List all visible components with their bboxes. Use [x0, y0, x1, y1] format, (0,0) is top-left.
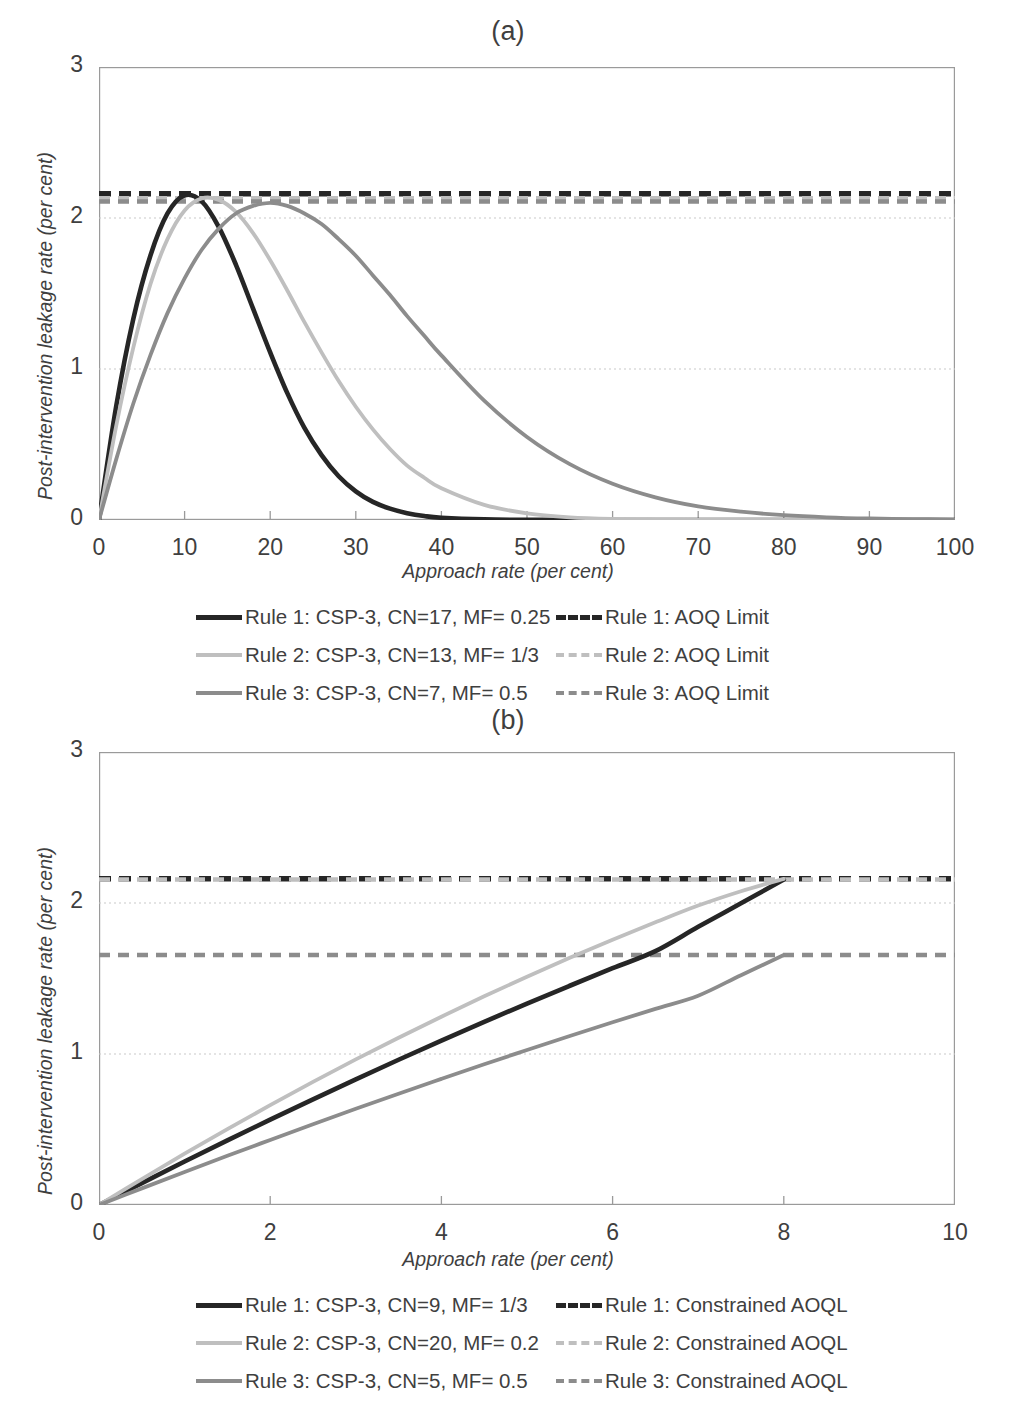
panel-b-chart-svg: [99, 752, 955, 1205]
y-tick-label: 3: [37, 736, 83, 763]
x-tick-label: 60: [573, 534, 653, 561]
panel-a-title: (a): [0, 16, 1016, 47]
panel-a-plot-area: [99, 67, 955, 520]
legend-item[interactable]: Rule 1: CSP-3, CN=9, MF= 1/3: [196, 1293, 546, 1317]
x-tick-label: 10: [915, 1219, 995, 1246]
legend-item[interactable]: Rule 2: CSP-3, CN=13, MF= 1/3: [196, 643, 546, 667]
legend-solid-line-icon: [196, 1303, 242, 1308]
legend-dashed-line-icon: [556, 1341, 602, 1345]
legend-solid-line-icon: [196, 615, 242, 620]
legend-label: Rule 2: Constrained AOQL: [605, 1331, 848, 1355]
legend-label: Rule 2: CSP-3, CN=20, MF= 0.2: [245, 1331, 539, 1355]
x-tick-label: 0: [59, 534, 139, 561]
panel-b-title: (b): [0, 705, 1016, 736]
x-tick-label: 20: [230, 534, 310, 561]
legend-solid-line-icon: [196, 1379, 242, 1383]
x-tick-label: 6: [573, 1219, 653, 1246]
x-tick-label: 4: [401, 1219, 481, 1246]
legend-label: Rule 3: Constrained AOQL: [605, 1369, 848, 1393]
legend-item[interactable]: Rule 3: Constrained AOQL: [556, 1369, 886, 1393]
y-tick-label: 0: [37, 504, 83, 531]
legend-row: Rule 3: CSP-3, CN=5, MF= 0.5Rule 3: Cons…: [0, 1362, 1016, 1400]
legend-label: Rule 1: CSP-3, CN=17, MF= 0.25: [245, 605, 550, 629]
x-tick-label: 70: [658, 534, 738, 561]
y-tick-label: 1: [37, 353, 83, 380]
legend-dashed-line-icon: [556, 615, 602, 620]
y-tick-label: 1: [37, 1038, 83, 1065]
legend-label: Rule 1: AOQ Limit: [605, 605, 769, 629]
panel-a: (a) Post-intervention leakage rate (per …: [0, 0, 1016, 710]
x-tick-label: 50: [487, 534, 567, 561]
legend-label: Rule 1: Constrained AOQL: [605, 1293, 848, 1317]
legend-label: Rule 2: CSP-3, CN=13, MF= 1/3: [245, 643, 539, 667]
x-tick-label: 10: [145, 534, 225, 561]
legend-item[interactable]: Rule 1: Constrained AOQL: [556, 1293, 886, 1317]
x-tick-label: 100: [915, 534, 995, 561]
figure-root: (a) Post-intervention leakage rate (per …: [0, 0, 1016, 1419]
x-tick-label: 90: [829, 534, 909, 561]
legend-item[interactable]: Rule 2: Constrained AOQL: [556, 1331, 886, 1355]
legend-item[interactable]: Rule 3: CSP-3, CN=5, MF= 0.5: [196, 1369, 546, 1393]
legend-row: Rule 1: CSP-3, CN=9, MF= 1/3Rule 1: Cons…: [0, 1286, 1016, 1324]
x-tick-label: 8: [744, 1219, 824, 1246]
x-tick-label: 30: [316, 534, 396, 561]
y-tick-label: 0: [37, 1189, 83, 1216]
panel-b: (b) Post-intervention leakage rate (per …: [0, 690, 1016, 1419]
y-tick-label: 2: [37, 887, 83, 914]
legend-label: Rule 3: CSP-3, CN=5, MF= 0.5: [245, 1369, 528, 1393]
legend-solid-line-icon: [196, 1341, 242, 1345]
legend-row: Rule 1: CSP-3, CN=17, MF= 0.25Rule 1: AO…: [0, 598, 1016, 636]
legend-label: Rule 1: CSP-3, CN=9, MF= 1/3: [245, 1293, 528, 1317]
panel-b-legend: Rule 1: CSP-3, CN=9, MF= 1/3Rule 1: Cons…: [0, 1286, 1016, 1400]
legend-item[interactable]: Rule 1: CSP-3, CN=17, MF= 0.25: [196, 605, 546, 629]
legend-label: Rule 2: AOQ Limit: [605, 643, 769, 667]
panel-b-x-axis-label: Approach rate (per cent): [0, 1248, 1016, 1271]
x-tick-label: 80: [744, 534, 824, 561]
legend-dashed-line-icon: [556, 1303, 602, 1308]
legend-row: Rule 2: CSP-3, CN=20, MF= 0.2Rule 2: Con…: [0, 1324, 1016, 1362]
legend-item[interactable]: Rule 2: AOQ Limit: [556, 643, 886, 667]
legend-solid-line-icon: [196, 653, 242, 657]
y-tick-label: 3: [37, 51, 83, 78]
panel-a-x-axis-label: Approach rate (per cent): [0, 560, 1016, 583]
legend-dashed-line-icon: [556, 1379, 602, 1383]
x-tick-label: 2: [230, 1219, 310, 1246]
legend-dashed-line-icon: [556, 653, 602, 657]
panel-a-chart-svg: [99, 67, 955, 520]
legend-row: Rule 2: CSP-3, CN=13, MF= 1/3Rule 2: AOQ…: [0, 636, 1016, 674]
legend-item[interactable]: Rule 1: AOQ Limit: [556, 605, 886, 629]
x-tick-label: 40: [401, 534, 481, 561]
panel-b-plot-area: [99, 752, 955, 1205]
y-tick-label: 2: [37, 202, 83, 229]
legend-item[interactable]: Rule 2: CSP-3, CN=20, MF= 0.2: [196, 1331, 546, 1355]
x-tick-label: 0: [59, 1219, 139, 1246]
